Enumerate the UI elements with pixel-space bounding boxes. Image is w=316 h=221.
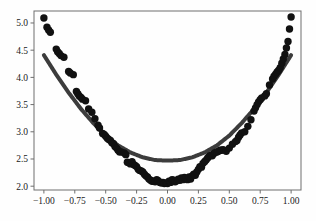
scatter-plot-svg: −1.00−0.75−0.50−0.250.000.250.500.751.00… <box>0 0 316 221</box>
figure-container: −1.00−0.75−0.50−0.250.000.250.500.751.00… <box>0 0 316 221</box>
x-tick-label: 0.50 <box>221 196 238 206</box>
y-tick-label: 3.0 <box>16 127 28 137</box>
y-tick-label: 2.0 <box>16 182 28 192</box>
x-tick-label: −1.00 <box>33 196 55 206</box>
x-tick-label: 1.00 <box>283 196 300 206</box>
y-tick-label: 2.5 <box>16 154 28 164</box>
scatter-point <box>82 97 89 104</box>
scatter-point <box>283 44 290 51</box>
y-tick-label: 4.5 <box>16 46 28 56</box>
scatter-point <box>60 54 67 61</box>
scatter-point <box>286 25 293 32</box>
y-tick-label: 4.0 <box>16 73 28 83</box>
chart-canvas: −1.00−0.75−0.50−0.250.000.250.500.751.00… <box>0 0 316 221</box>
x-tick-label: −0.75 <box>64 196 86 206</box>
x-tick-label: 0.25 <box>190 196 207 206</box>
x-tick-label: −0.25 <box>126 196 148 206</box>
scatter-point <box>88 109 95 116</box>
scatter-point <box>263 90 270 97</box>
scatter-point <box>281 51 288 58</box>
y-tick-label: 3.5 <box>16 100 28 110</box>
scatter-point <box>47 29 54 36</box>
scatter-point <box>122 151 129 158</box>
x-tick-label: −0.50 <box>95 196 117 206</box>
scatter-point <box>247 116 254 123</box>
scatter-point <box>244 123 251 130</box>
scatter-point <box>284 38 291 45</box>
scatter-point <box>91 115 98 122</box>
y-tick-label: 5.0 <box>16 18 28 28</box>
x-tick-label: 0.75 <box>252 196 269 206</box>
x-tick-label: 0.00 <box>159 196 176 206</box>
scatter-point <box>40 14 47 21</box>
x-axis-tick-labels: −1.00−0.75−0.50−0.250.000.250.500.751.00 <box>33 196 300 206</box>
scatter-point <box>70 71 77 78</box>
scatter-point <box>287 13 294 20</box>
